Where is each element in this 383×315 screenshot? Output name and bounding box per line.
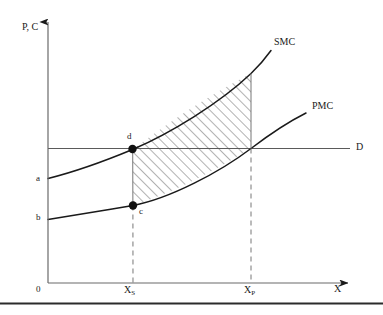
smc-intercept-label-a: a [36, 174, 40, 183]
x-axis-label: X [334, 284, 341, 294]
tick-xs-sub: S [131, 289, 135, 297]
pmc-curve-label: PMC [312, 101, 333, 111]
tick-xp-sub: P [251, 289, 255, 297]
point-c-marker [129, 201, 137, 209]
point-c-label: c [139, 207, 143, 216]
pmc-intercept-label-b: b [36, 213, 41, 222]
tick-label-xs: XS [124, 285, 135, 295]
diagram-canvas [0, 0, 383, 315]
point-d-label: d [127, 132, 132, 141]
smc-curve-label: SMC [274, 37, 295, 47]
deadweight-loss-hatched-area [133, 74, 252, 206]
y-axis-label: P, C [22, 22, 38, 32]
point-d-marker [128, 145, 136, 153]
economics-diagram: P, C X 0 SMC PMC D a b d c XS XP [0, 0, 383, 315]
tick-label-xp: XP [244, 285, 255, 295]
origin-label: 0 [36, 285, 41, 294]
demand-line-label: D [356, 142, 363, 152]
